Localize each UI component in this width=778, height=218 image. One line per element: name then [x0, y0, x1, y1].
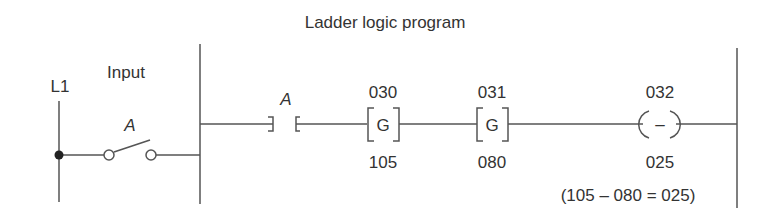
g1-symbol: G	[376, 116, 389, 135]
l1-rail-label: L1	[51, 77, 70, 96]
g1-bottom-value: 105	[369, 153, 397, 172]
g2-top-address: 031	[478, 83, 506, 102]
g1-top-address: 030	[369, 83, 397, 102]
switch-label: A	[123, 116, 135, 135]
junction-dot-icon	[55, 151, 64, 160]
instruction-bracket-icon	[502, 108, 508, 141]
instruction-bracket-icon	[393, 108, 399, 141]
contact-label: A	[279, 90, 291, 109]
switch-terminal-icon	[104, 150, 114, 160]
switch-terminal-icon	[146, 150, 156, 160]
g2-symbol: G	[485, 116, 498, 135]
instruction-bracket-icon	[368, 108, 374, 141]
output-bottom-value: 025	[646, 153, 674, 172]
output-symbol: –	[655, 115, 665, 134]
instruction-bracket-icon	[477, 108, 483, 141]
input-label: Input	[107, 63, 145, 82]
output-top-address: 032	[646, 83, 674, 102]
diagram-title: Ladder logic program	[305, 13, 466, 32]
g2-bottom-value: 080	[478, 153, 506, 172]
equation-text: (105 – 080 = 025)	[561, 186, 696, 205]
switch-blade-icon	[114, 140, 150, 152]
ladder-logic-diagram: Ladder logic program L1 Input A	[0, 0, 778, 218]
